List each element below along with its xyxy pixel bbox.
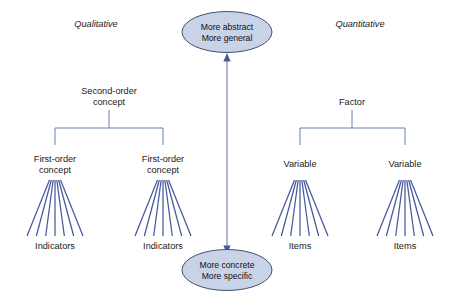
- pole-top-line2: More general: [202, 33, 253, 43]
- qual-child-2-line2: concept: [147, 165, 180, 175]
- quant-child-1-leaf-label: Items: [289, 241, 312, 251]
- pole-bottom: More concrete More specific: [182, 250, 272, 291]
- quantitative-tree: Factor Variable Items Variable Items: [272, 97, 433, 251]
- qual-child-1-line1: First-order: [34, 154, 76, 164]
- quant-child-1-fan: [272, 180, 328, 236]
- qual-child-2-fan: [135, 180, 191, 236]
- abstraction-hierarchy-diagram: Qualitative Quantitative More abstract M…: [0, 0, 455, 298]
- quant-root-line1: Factor: [339, 97, 365, 107]
- qual-child-1-line2: concept: [39, 165, 72, 175]
- qual-root-line2: concept: [93, 97, 126, 107]
- abstraction-axis: [223, 53, 230, 254]
- pole-top: More abstract More general: [182, 12, 272, 53]
- pole-top-line1: More abstract: [201, 22, 254, 32]
- diagram-canvas: Qualitative Quantitative More abstract M…: [0, 0, 455, 298]
- qual-child-2-leaf-label: Indicators: [143, 241, 183, 251]
- qualitative-tree: Second-order concept First-order concept…: [27, 86, 191, 251]
- quant-child-1-line1: Variable: [283, 159, 316, 169]
- heading-qualitative: Qualitative: [74, 19, 117, 29]
- quant-child-2-line1: Variable: [388, 159, 421, 169]
- qual-child-1-leaf-label: Indicators: [35, 241, 75, 251]
- pole-bottom-line1: More concrete: [200, 260, 255, 270]
- quant-child-2-fan: [377, 180, 433, 236]
- qual-child-1-fan: [27, 180, 83, 236]
- qual-root-line1: Second-order: [81, 86, 137, 96]
- pole-bottom-line2: More specific: [202, 271, 253, 281]
- heading-quantitative: Quantitative: [335, 19, 384, 29]
- axis-arrowhead-up: [223, 53, 230, 62]
- quant-child-2-leaf-label: Items: [394, 241, 417, 251]
- qual-child-2-line1: First-order: [142, 154, 184, 164]
